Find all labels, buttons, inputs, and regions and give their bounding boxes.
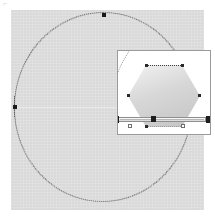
cap-left-handle[interactable]: [118, 116, 119, 123]
cap-right-handle[interactable]: [206, 116, 210, 123]
square-marker-left[interactable]: [128, 124, 132, 128]
square-marker-right[interactable]: [181, 124, 185, 128]
bar-center-line: [120, 119, 204, 120]
vertex-left-handle[interactable]: [127, 94, 130, 97]
hexagon-bottom-edge: [146, 126, 182, 127]
vertex-right-handle[interactable]: [198, 94, 201, 97]
inset-panel[interactable]: [117, 50, 211, 135]
screenshot-root: ⌐: [0, 0, 215, 218]
mid-handle[interactable]: [151, 116, 156, 122]
selection-handle-top[interactable]: [102, 13, 106, 17]
selection-handle-left[interactable]: [13, 105, 17, 109]
vertex-top-left-handle[interactable]: [145, 64, 148, 67]
corner-mark: ⌐: [3, 0, 10, 8]
horizontal-bar-widget[interactable]: [118, 114, 210, 126]
hexagon-top-edge: [146, 65, 182, 66]
drawing-canvas[interactable]: [11, 10, 204, 210]
inset-clip-region: [118, 51, 210, 134]
vertex-top-right-handle[interactable]: [181, 64, 184, 67]
